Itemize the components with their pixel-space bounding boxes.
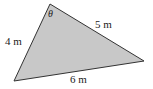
side-5m-label: 5 m <box>95 18 112 30</box>
triangle-diagram: θ 5 m 4 m 6 m <box>0 0 153 89</box>
side-4m-label: 4 m <box>5 35 22 47</box>
angle-theta-label: θ <box>48 8 53 19</box>
triangle <box>14 4 144 81</box>
side-6m-label: 6 m <box>70 73 87 85</box>
